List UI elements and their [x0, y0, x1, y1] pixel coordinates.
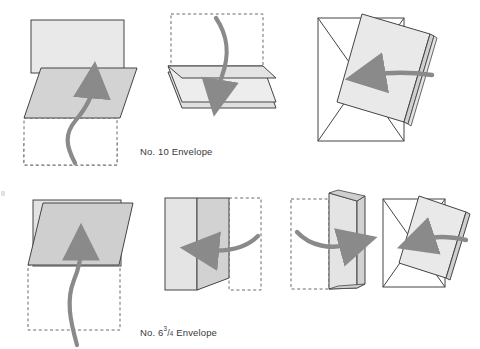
caption-no10-text: No. 10 Envelope	[140, 146, 213, 157]
fraction-denominator: 4	[170, 330, 174, 337]
paper-left-panel	[165, 198, 197, 290]
panel-no10-step2	[168, 14, 276, 108]
paper-folded-flap	[24, 68, 137, 118]
panel-no6-step3	[291, 190, 365, 289]
envelope-folding-diagram: No. 10 Envelope No. 63/4 Envelope	[0, 0, 480, 349]
caption-no6-fraction: 3/4	[163, 325, 173, 338]
caption-no6-suffix: Envelope	[176, 327, 217, 338]
arrow-insert	[372, 73, 432, 75]
diagram-canvas	[0, 0, 480, 349]
caption-no10-envelope: No. 10 Envelope	[140, 146, 213, 157]
paper-swinging-panel	[197, 198, 229, 290]
panel-no6-step2	[165, 198, 261, 290]
paper-upper-face	[31, 20, 124, 73]
caption-no6-envelope: No. 63/4 Envelope	[140, 325, 217, 338]
paper-standing-side	[357, 196, 365, 288]
panel-no6-step4	[383, 196, 470, 287]
caption-no6-prefix: No. 6	[140, 327, 163, 338]
panel-no6-step1	[28, 200, 133, 345]
paper-standing-front	[329, 193, 357, 289]
panel-no10-step3	[318, 14, 437, 141]
registration-tick	[1, 191, 5, 196]
panel-no10-step1	[24, 20, 137, 165]
